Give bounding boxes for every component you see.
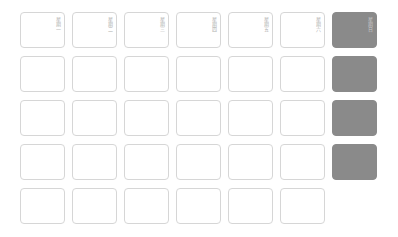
weekday-label: 星期五 [263,17,268,32]
day-cell[interactable] [72,56,117,92]
day-cell[interactable] [280,188,325,224]
day-cell[interactable]: 星期六 [280,12,325,48]
day-cell[interactable] [280,56,325,92]
day-cell[interactable] [176,188,221,224]
day-cell-shaded[interactable] [332,100,377,136]
day-cell[interactable] [124,144,169,180]
calendar-grid: 星期一 星期二 星期三 星期四 星期五 星期六 星期日 [20,12,377,224]
day-cell[interactable]: 星期四 [176,12,221,48]
day-cell[interactable] [176,100,221,136]
day-cell[interactable] [228,144,273,180]
day-cell[interactable]: 星期一 [20,12,65,48]
weekday-label: 星期一 [55,17,60,32]
weekday-label: 星期二 [107,17,112,32]
weekday-label: 星期三 [159,17,164,32]
day-cell[interactable] [228,100,273,136]
day-cell-shaded[interactable]: 星期日 [332,12,377,48]
day-cell[interactable] [124,56,169,92]
empty-slot [332,188,377,224]
day-cell[interactable] [176,144,221,180]
day-cell[interactable] [20,188,65,224]
day-cell[interactable]: 星期二 [72,12,117,48]
day-cell[interactable] [280,100,325,136]
day-cell[interactable] [280,144,325,180]
day-cell[interactable] [20,56,65,92]
day-cell[interactable]: 星期五 [228,12,273,48]
weekday-label: 星期六 [315,17,320,32]
day-cell[interactable] [20,100,65,136]
day-cell[interactable] [228,56,273,92]
day-cell[interactable] [228,188,273,224]
weekday-label: 星期四 [211,17,216,32]
day-cell[interactable] [72,100,117,136]
day-cell[interactable] [124,188,169,224]
day-cell[interactable] [176,56,221,92]
day-cell[interactable] [72,144,117,180]
day-cell[interactable] [72,188,117,224]
day-cell[interactable] [124,100,169,136]
day-cell[interactable] [20,144,65,180]
weekday-label: 星期日 [367,17,372,32]
day-cell[interactable]: 星期三 [124,12,169,48]
day-cell-shaded[interactable] [332,144,377,180]
day-cell-shaded[interactable] [332,56,377,92]
